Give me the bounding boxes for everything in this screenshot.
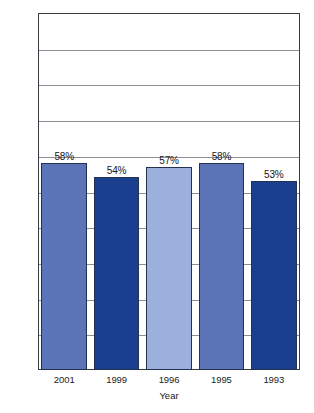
bar [41, 163, 87, 370]
bars-layer: 58%54%57%58%53% [38, 13, 300, 370]
bar-value-label: 57% [159, 155, 178, 166]
bar-value-label: 58% [212, 151, 231, 162]
x-axis-title: Year [38, 390, 300, 401]
x-axis-tick-label: 1995 [195, 374, 247, 385]
bar-group: 53% [251, 13, 297, 370]
bar-value-label: 53% [264, 169, 283, 180]
bar [199, 163, 245, 370]
bar [94, 177, 140, 370]
bar [251, 181, 297, 370]
bar [146, 167, 192, 370]
x-axis-tick-label: 2001 [38, 374, 90, 385]
bar-group: 54% [94, 13, 140, 370]
bar-group: 57% [146, 13, 192, 370]
bar-value-label: 54% [107, 165, 126, 176]
bar-chart: 0%10%20%30%40%50%60%70%80%90%100% 58%54%… [0, 0, 314, 413]
bar-group: 58% [41, 13, 87, 370]
bar-value-label: 58% [54, 151, 73, 162]
bar-group: 58% [199, 13, 245, 370]
x-axis-tick-label: 1993 [248, 374, 300, 385]
x-axis-tick-label: 1999 [90, 374, 142, 385]
x-axis-tick-label: 1996 [143, 374, 195, 385]
